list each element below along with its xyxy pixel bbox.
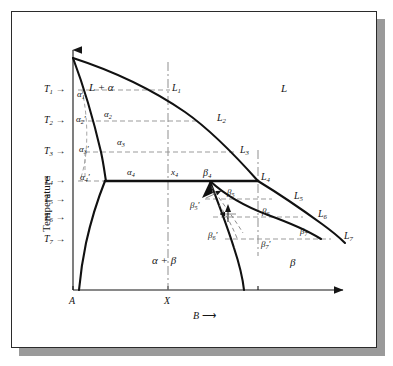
x-axis-origin-label: A [69, 296, 75, 306]
alpha-solvus [79, 181, 105, 290]
point-label-L5: L5 [294, 191, 303, 202]
point-label-alpha-2: α2 [104, 110, 112, 120]
y-tick-T3: T3 → [44, 146, 65, 157]
composition-verticals [168, 62, 258, 290]
y-tick-T6: T6 → [44, 212, 65, 223]
point-label-beta-6-prime: β6′ [208, 231, 218, 241]
point-label-L6: L6 [318, 209, 327, 220]
y-tick-T2: T2 → [44, 115, 65, 126]
point-label-L1: L1 [172, 83, 181, 94]
point-label-beta-5: β5 [227, 188, 235, 198]
y-tick-T7: T7 → [44, 234, 65, 245]
x-axis-title: B⟶ [193, 311, 216, 321]
point-label-L4: L4 [261, 172, 270, 183]
region-label-liquid: L [281, 83, 287, 94]
tie-lines [78, 90, 331, 239]
point-label-beta-4: β4 [203, 168, 211, 179]
point-label-beta-7-prime: β7′ [261, 240, 271, 250]
region-label-beta: β [290, 257, 295, 268]
point-label-alpha-4-prime: α4′ [80, 173, 90, 183]
x-axis-mid-label: X [164, 296, 170, 306]
y-tick-T5: T5 → [44, 194, 65, 205]
region-label-liquid-plus-alpha: L + α [89, 82, 114, 93]
liquidus-A-side [73, 58, 258, 181]
point-label-L2: L2 [217, 113, 226, 124]
point-label-x-4: x4 [171, 168, 178, 178]
point-label-alpha-4: α4 [127, 168, 135, 178]
figure-root: Temperature T1 → T2 → T3 → T4 → T5 → T6 … [0, 0, 393, 366]
point-label-beta-7: β7 [300, 227, 308, 237]
point-label-alpha-2-prime: α2′ [76, 115, 86, 125]
point-label-L7: L7 [344, 231, 353, 242]
region-label-alpha-plus-beta: α + β [152, 255, 176, 266]
point-label-alpha-3-prime: α3′ [79, 145, 89, 155]
point-label-beta-5-prime: β5′ [190, 201, 200, 211]
y-tick-T1: T1 → [44, 84, 65, 95]
point-label-beta-6: β6 [262, 207, 270, 217]
alpha-prime-guides [80, 90, 87, 181]
point-label-L3: L3 [240, 145, 249, 156]
alpha-prime-curve [80, 90, 87, 181]
point-label-alpha-3: α3 [117, 138, 125, 148]
point-label-alpha-1: α1 [77, 90, 85, 100]
beta-cluster-arrow [225, 204, 231, 222]
y-tick-T4: T4 → [44, 175, 65, 186]
